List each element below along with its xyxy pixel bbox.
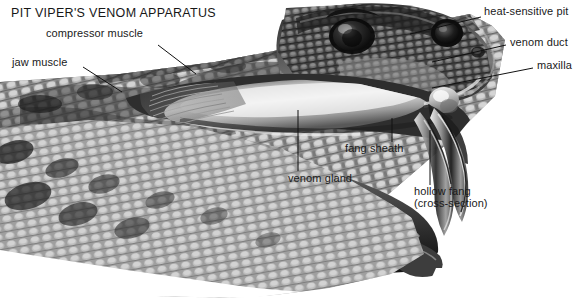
- label-jaw-muscle: jaw muscle: [12, 56, 67, 69]
- label-venom-duct: venom duct: [510, 36, 568, 49]
- label-compressor-muscle: compressor muscle: [46, 27, 143, 40]
- label-maxilla: maxilla: [537, 59, 572, 72]
- figure-title: PIT VIPER'S VENOM APPARATUS: [11, 6, 216, 20]
- label-hollow-fang-cross-section: (cross-section): [414, 197, 488, 209]
- label-fang-sheath: fang sheath: [345, 142, 404, 155]
- label-venom-gland: venom gland: [288, 172, 352, 185]
- pit-viper-illustration: [0, 0, 577, 304]
- label-hollow-fang: hollow fang: [414, 185, 471, 197]
- figure-canvas: PIT VIPER'S VENOM APPARATUS compressor m…: [0, 0, 577, 304]
- label-heat-sensitive-pit: heat-sensitive pit: [484, 5, 568, 18]
